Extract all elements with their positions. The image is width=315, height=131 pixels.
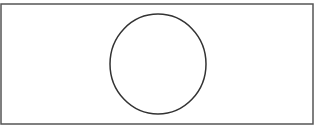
rectangle-frame bbox=[1, 4, 313, 124]
diagram-canvas bbox=[0, 0, 315, 131]
